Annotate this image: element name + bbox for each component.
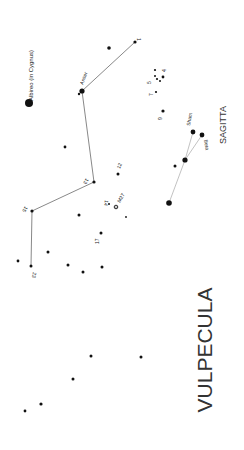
star-icon: [159, 80, 161, 82]
star-icon: [133, 40, 136, 43]
star-icon: [82, 271, 85, 274]
star-icon: [156, 78, 158, 80]
star-icon: [17, 260, 20, 263]
star-label: M27: [116, 192, 126, 204]
star-icon: [67, 264, 70, 267]
star-icon: [30, 209, 33, 212]
star-map-canvas: Albireo (in Cygnus)Anser14579ShamBeta131…: [0, 0, 244, 450]
constellation-name: VULPECULA: [193, 288, 216, 413]
star-icon: [101, 266, 104, 269]
star-icon: [107, 46, 111, 50]
star-icon: [117, 173, 120, 176]
star-icon: [78, 214, 81, 217]
nebula-center-icon: [115, 206, 116, 207]
star-label: 15: [21, 206, 29, 214]
star-icon: [155, 91, 157, 93]
star-icon: [78, 93, 80, 95]
star-icon: [191, 130, 196, 135]
star-icon: [24, 410, 27, 413]
star-icon: [161, 109, 164, 112]
constellation-line: [169, 160, 185, 203]
star-icon: [140, 356, 143, 359]
star-label: Anser: [78, 71, 88, 86]
constellation-line: [82, 91, 94, 182]
star-icon: [166, 200, 172, 206]
neighbor-constellation-name: SAGITTA: [218, 106, 228, 144]
star-icon: [125, 216, 127, 218]
star-icon: [90, 355, 93, 358]
star-label: 1: [136, 38, 142, 41]
constellation-line: [185, 135, 202, 160]
star-icon: [47, 251, 50, 254]
star-icon: [100, 232, 103, 235]
star-chart: Albireo (in Cygnus)Anser14579ShamBeta131…: [0, 0, 244, 450]
star-label: 13: [82, 178, 90, 186]
star-label: 23: [31, 272, 38, 279]
star-label: 9: [157, 117, 163, 120]
star-icon: [154, 75, 156, 77]
star-label: 5: [146, 81, 152, 84]
star-icon: [79, 88, 84, 93]
star-label: 17: [94, 238, 100, 244]
star-label: Albireo (in Cygnus): [28, 50, 34, 101]
star-icon: [72, 378, 75, 381]
constellation-line: [32, 182, 94, 211]
star-icon: [200, 133, 205, 138]
constellation-line: [31, 211, 32, 266]
star-labels-layer: Albireo (in Cygnus)Anser14579ShamBeta131…: [21, 38, 211, 279]
star-icon: [182, 157, 187, 162]
star-label: Sham: [185, 112, 193, 126]
star-icon: [154, 69, 156, 71]
constellation-line: [185, 132, 193, 160]
star-icon: [39, 402, 42, 405]
star-label: 7: [148, 93, 154, 96]
star-icon: [92, 180, 95, 183]
star-label: 14: [103, 200, 110, 207]
star-icon: [30, 265, 33, 268]
star-label: 12: [115, 162, 123, 169]
stars-layer: [17, 40, 205, 412]
constellation-lines: [31, 42, 202, 266]
star-icon: [174, 165, 177, 168]
star-icon: [162, 76, 165, 79]
star-icon: [64, 146, 67, 149]
star-label: Beta: [203, 139, 211, 150]
star-label: 4: [161, 69, 167, 72]
